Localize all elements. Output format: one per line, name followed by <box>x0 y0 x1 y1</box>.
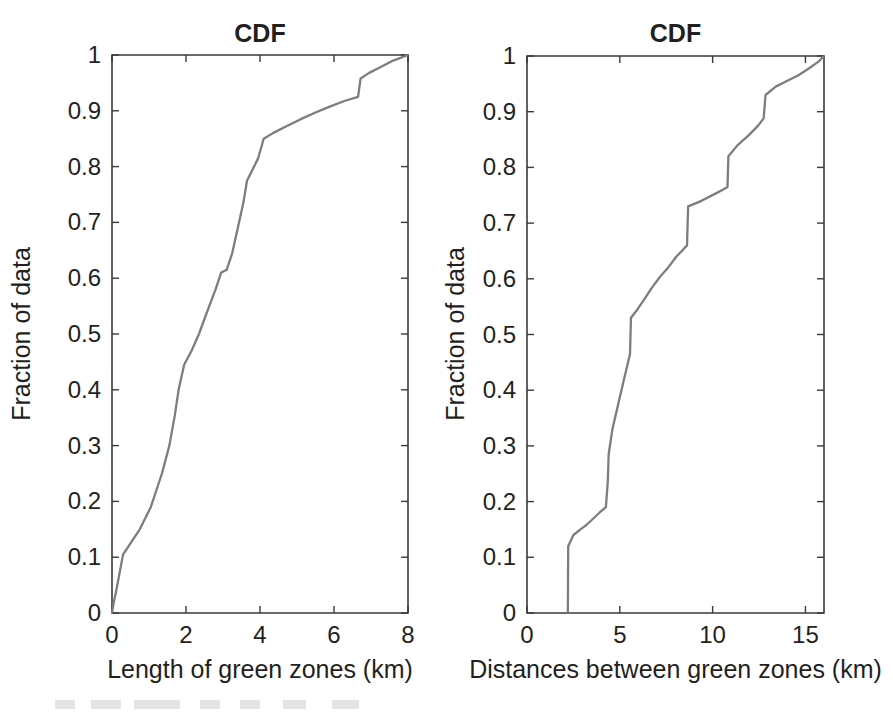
clipped-caption-fragment <box>55 700 385 709</box>
y-tick-label: 1 <box>503 42 516 69</box>
x-tick-label: 0 <box>520 621 533 648</box>
y-tick-label: 0.5 <box>68 320 101 347</box>
right-cdf-plot: CDF 00.10.20.30.40.50.60.70.80.91051015 … <box>440 0 893 690</box>
y-tick-label: 0.4 <box>483 376 516 403</box>
y-tick-label: 0.2 <box>68 487 101 514</box>
x-tick-label: 2 <box>179 621 192 648</box>
left-cdf-curve <box>112 55 408 613</box>
y-tick-label: 0.8 <box>68 153 101 180</box>
x-tick-label: 0 <box>105 621 118 648</box>
panel-length-of-green-zones: CDF 00.10.20.30.40.50.60.70.80.9102468 L… <box>0 0 450 690</box>
left-y-axis-title: Fraction of data <box>7 247 35 421</box>
y-tick-label: 0.8 <box>483 153 516 180</box>
y-tick-label: 0.3 <box>483 432 516 459</box>
x-tick-label: 8 <box>401 621 414 648</box>
y-tick-label: 0.3 <box>68 432 101 459</box>
left-axis-box <box>112 55 408 613</box>
y-tick-label: 0.1 <box>68 543 101 570</box>
y-tick-label: 0 <box>88 599 101 626</box>
x-tick-label: 5 <box>613 621 626 648</box>
left-x-axis-title: Length of green zones (km) <box>107 655 413 683</box>
y-tick-label: 0.1 <box>483 543 516 570</box>
cdf-figure: CDF 00.10.20.30.40.50.60.70.80.9102468 L… <box>0 0 893 713</box>
y-tick-label: 0.6 <box>68 264 101 291</box>
left-cdf-plot: CDF 00.10.20.30.40.50.60.70.80.9102468 L… <box>0 0 450 690</box>
y-tick-label: 1 <box>88 41 101 68</box>
y-tick-label: 0.9 <box>68 97 101 124</box>
y-tick-label: 0.2 <box>483 488 516 515</box>
y-tick-label: 0.5 <box>483 321 516 348</box>
left-tick-labels: 00.10.20.30.40.50.60.70.80.9102468 <box>68 41 415 648</box>
y-tick-label: 0.7 <box>68 208 101 235</box>
x-tick-label: 10 <box>699 621 726 648</box>
y-tick-label: 0 <box>503 599 516 626</box>
x-tick-label: 6 <box>327 621 340 648</box>
right-axis-ticks <box>527 56 824 613</box>
panel-distances-between-green-zones: CDF 00.10.20.30.40.50.60.70.80.91051015 … <box>440 0 893 690</box>
right-y-axis-title: Fraction of data <box>441 247 469 421</box>
y-tick-label: 0.7 <box>483 209 516 236</box>
y-tick-label: 0.9 <box>483 98 516 125</box>
x-tick-label: 4 <box>253 621 266 648</box>
left-plot-title: CDF <box>234 19 285 47</box>
right-plot-title: CDF <box>650 19 701 47</box>
x-tick-label: 15 <box>792 621 819 648</box>
y-tick-label: 0.4 <box>68 376 101 403</box>
right-axis-box <box>527 56 824 613</box>
y-tick-label: 0.6 <box>483 265 516 292</box>
right-x-axis-title: Distances between green zones (km) <box>469 655 882 683</box>
left-axis-ticks <box>112 55 408 613</box>
right-cdf-curve <box>568 56 824 613</box>
